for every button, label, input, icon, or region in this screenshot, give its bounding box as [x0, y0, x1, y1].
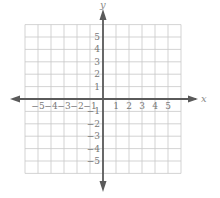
x-axis-left-arrow-icon	[10, 96, 20, 103]
x-tick-label: 1	[113, 101, 119, 111]
y-tick-label: −3	[87, 131, 101, 141]
y-tick-label: 3	[94, 57, 100, 67]
x-tick-label: 5	[165, 101, 171, 111]
x-tick-label: −3	[57, 101, 71, 111]
coordinate-plane: x y −5−4−3−2−11234554321−1−2−3−4−5	[0, 0, 220, 198]
y-axis-label: y	[99, 0, 106, 10]
x-tick-label: 3	[139, 101, 145, 111]
y-tick-label: −4	[87, 144, 101, 154]
x-tick-label: 4	[152, 101, 158, 111]
y-tick-label: 5	[94, 32, 100, 42]
y-tick-label: 1	[94, 82, 100, 92]
x-tick-label: −2	[70, 101, 83, 111]
y-tick-label: −5	[87, 156, 101, 166]
x-axis-right-arrow-icon	[188, 96, 198, 103]
x-tick-label: −5	[31, 101, 45, 111]
y-tick-label: 4	[94, 44, 100, 54]
y-tick-label: 2	[94, 69, 100, 79]
y-axis-up-arrow-icon	[100, 9, 107, 20]
x-axis-label: x	[201, 93, 207, 104]
y-tick-label: −1	[87, 106, 100, 116]
y-tick-label: −2	[87, 119, 100, 129]
x-tick-label: 2	[126, 101, 132, 111]
x-tick-label: −4	[44, 101, 58, 111]
y-axis-down-arrow-icon	[100, 181, 107, 192]
